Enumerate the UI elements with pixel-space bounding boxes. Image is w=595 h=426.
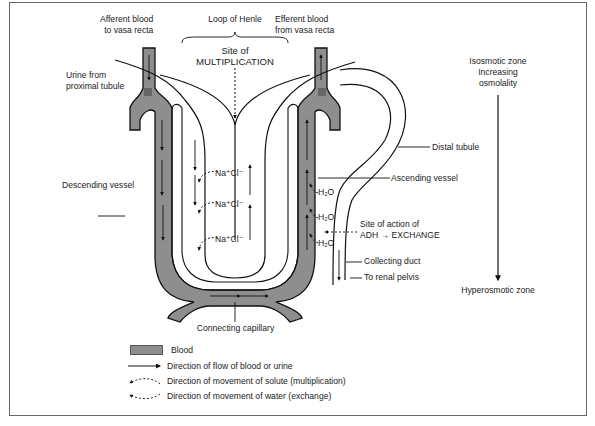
loop-of-henle-label: Loop of Henle [195,14,275,25]
h2o-label-1: H₂O [318,187,334,198]
nacl-label-2: Na⁺Cl⁻ [215,199,243,210]
nacl-label-3: Na⁺Cl⁻ [215,234,243,245]
dashed-water-arrow-icon [126,390,164,402]
site-of-action-label: Site of action of ADH → EXCHANGE [360,219,440,241]
nacl-label-1: Na⁺Cl⁻ [215,168,243,179]
legend-item-blood: Blood [130,345,193,355]
h2o-label-2: H₂O [318,212,334,223]
to-renal-pelvis-label: To renal pelvis [364,272,419,283]
ascending-vessel-label: Ascending vessel [391,173,458,184]
afferent-label: Afferent blood to vasa recta [100,14,153,36]
h2o-label-3: H₂O [318,238,334,249]
loop-brace [182,32,288,43]
efferent-label: Efferent blood from vasa recta [275,14,334,36]
dashed-curved-arrow-icon [126,375,164,387]
legend-item-flow: Direction of flow of blood or urine [126,360,293,372]
blood-swatch-icon [130,345,163,355]
urine-from-label: Urine from proximal tubule [66,70,124,92]
descending-vessel-label: Descending vessel [62,180,134,191]
isosmotic-label: Isosmotic zone Increasing osmolality [455,56,541,89]
distal-tubule-label: Distal tubule [432,142,479,153]
legend-item-water: Direction of movement of water (exchange… [126,390,331,402]
legend-item-solute: Direction of movement of solute (multipl… [126,375,346,387]
collecting-duct-label: Collecting duct [364,256,420,267]
connecting-capillary-label: Connecting capillary [178,323,293,334]
site-of-multiplication-label: Site of MULTIPLICATION [180,45,290,67]
solid-arrow-icon [126,360,164,372]
hyperosmotic-label: Hyperosmotic zone [450,285,546,296]
